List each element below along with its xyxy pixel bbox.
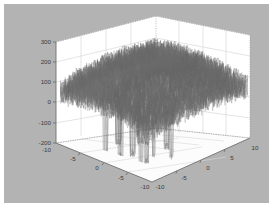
x-tick-label-neg5a: -5 bbox=[70, 155, 76, 162]
z-tick-label-neg100: -100 bbox=[39, 119, 52, 126]
y-tick-label-neg10: -10 bbox=[156, 183, 166, 190]
z-tick-label-0: 0 bbox=[48, 98, 52, 105]
y-tick-label-neg5: -5 bbox=[181, 174, 187, 181]
surface-plot-svg: 300 200 100 0 -100 -200 -10 -5 0 -5 bbox=[4, 4, 269, 203]
y-tick-label-5: 5 bbox=[230, 154, 234, 161]
x-tick-label-neg5b: -5 bbox=[118, 174, 124, 181]
matlab-figure-window: 300 200 100 0 -100 -200 -10 -5 0 -5 bbox=[4, 4, 269, 203]
x-tick-label-neg10: -10 bbox=[141, 183, 151, 190]
z-tick-label-100: 100 bbox=[41, 78, 52, 85]
y-tick-label-10: 10 bbox=[252, 144, 259, 151]
z-tick-label-300: 300 bbox=[41, 38, 52, 45]
y-tick-label-0: 0 bbox=[206, 164, 210, 171]
x-tick-label-0: 0 bbox=[95, 164, 99, 171]
corner-tick-label-neg10: -10 bbox=[42, 146, 52, 153]
z-tick-label-200: 200 bbox=[41, 58, 52, 65]
plot-axes-3d: 300 200 100 0 -100 -200 -10 -5 0 -5 bbox=[4, 4, 269, 203]
